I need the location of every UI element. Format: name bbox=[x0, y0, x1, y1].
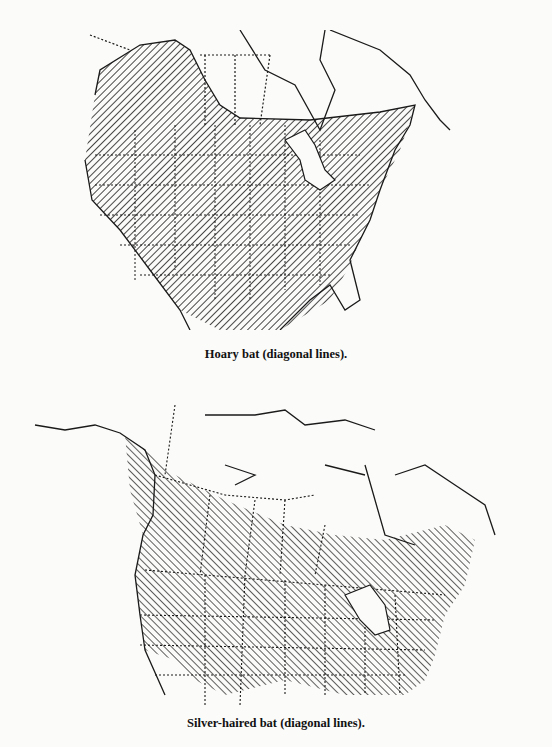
hoary-bat-caption: Hoary bat (diagonal lines). bbox=[0, 347, 552, 362]
hoary-bat-range-map bbox=[80, 30, 500, 330]
silver-haired-bat-caption: Silver-haired bat (diagonal lines). bbox=[0, 716, 552, 731]
silver-haired-bat-range-map bbox=[25, 395, 540, 710]
